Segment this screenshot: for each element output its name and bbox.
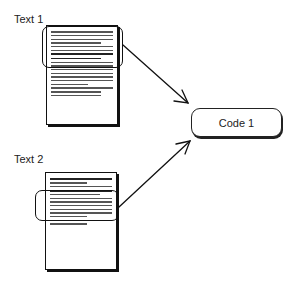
- arrows-layer: [0, 0, 301, 283]
- arrow-text-2-to-code-icon: [119, 141, 190, 207]
- arrow-text-1-to-code-icon: [123, 45, 188, 103]
